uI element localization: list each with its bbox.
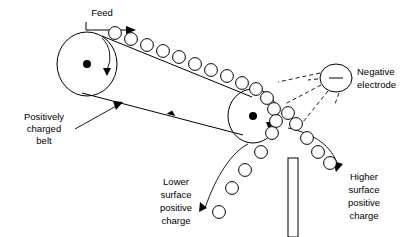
field-ray	[285, 85, 321, 104]
negative-electrode	[320, 64, 352, 92]
label-higher-surface-positive-charge: Higher surface positive charge	[348, 171, 380, 221]
belt-particle	[157, 45, 170, 58]
feed-arrow-line	[86, 22, 128, 30]
field-ray	[278, 73, 320, 82]
stream-particle	[301, 132, 314, 145]
belt-particle	[205, 64, 218, 77]
belt-top-line	[102, 36, 252, 97]
belt-particle	[266, 127, 279, 140]
belt-particle	[189, 58, 202, 71]
negative-electrode-line-1: Negative	[357, 66, 395, 77]
lower-surface-line-4: charge	[161, 215, 190, 226]
higher-surface-line-2: surface	[348, 184, 379, 195]
stream-particle	[312, 146, 325, 159]
left-pulley-rotation-arrowhead	[103, 68, 111, 76]
belt-particle	[250, 83, 263, 96]
belt-particle	[125, 33, 138, 46]
leader-arrowhead	[113, 101, 123, 110]
feed-label: Feed	[91, 7, 113, 18]
label-feed: Feed	[91, 7, 113, 18]
diagram-canvas: Feed Positively charged belt Negative el…	[0, 0, 412, 237]
label-negative-electrode: Negative electrode	[357, 66, 396, 90]
positively-charged-belt-line-1: Positively	[24, 111, 64, 122]
belt-particle	[173, 51, 186, 64]
stream-particle	[282, 107, 295, 120]
belt-particle	[268, 103, 281, 116]
lower-stream-trajectory	[205, 144, 248, 208]
left-pulley	[57, 32, 117, 96]
belt-particle	[109, 27, 122, 40]
positively-charged-belt-leader	[75, 101, 123, 129]
stream-particle	[255, 146, 268, 159]
lower-surface-line-1: Lower	[163, 176, 189, 187]
belt-particle	[141, 39, 154, 52]
lower-surface-line-2: surface	[160, 189, 191, 200]
label-lower-surface-positive-charge: Lower surface positive charge	[160, 176, 192, 226]
belt-bottom-line	[82, 93, 243, 135]
stream-particle	[239, 164, 252, 177]
higher-surface-line-3: positive	[348, 197, 380, 208]
lower-stream-arrowhead	[199, 202, 207, 212]
splitter-plate-body	[288, 158, 298, 237]
higher-surface-line-4: charge	[349, 210, 378, 221]
stream-particle	[290, 118, 303, 131]
stream-particle	[226, 182, 239, 195]
leader-line	[75, 105, 118, 129]
left-pulley-axis-dot	[83, 60, 91, 68]
field-ray	[335, 93, 339, 104]
field-ray	[308, 79, 318, 80]
belt-particle	[236, 77, 249, 90]
positively-charged-belt-line-3: belt	[36, 135, 52, 146]
negative-electrode-line-2: electrode	[357, 79, 396, 90]
higher-surface-particle-stream	[282, 107, 343, 172]
belt-particle	[221, 70, 234, 83]
left-pulley-rotation-arc	[102, 38, 110, 70]
lower-surface-line-3: positive	[160, 202, 192, 213]
stream-particle	[213, 206, 226, 219]
lower-surface-particle-stream	[199, 144, 267, 218]
label-positively-charged-belt: Positively charged belt	[24, 111, 64, 146]
positively-charged-belt-line-2: charged	[27, 123, 61, 134]
belt-particle	[270, 115, 283, 128]
right-pulley-axis-dot	[249, 112, 257, 120]
stream-particle	[324, 157, 337, 170]
belt-particle	[261, 92, 274, 105]
higher-surface-line-1: Higher	[350, 171, 378, 182]
electrostatic-separator-diagram: Feed Positively charged belt Negative el…	[0, 0, 412, 237]
field-ray	[303, 91, 328, 122]
splitter-plate	[288, 158, 298, 237]
